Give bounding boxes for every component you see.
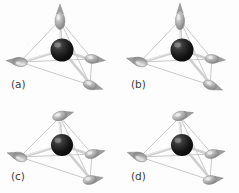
- spin-left: [126, 148, 149, 164]
- panel-b-label: (b): [131, 79, 146, 90]
- spin-front: [82, 79, 104, 94]
- spin-right: [205, 54, 226, 64]
- spin-apex: [55, 4, 65, 30]
- central-sphere: [51, 134, 73, 156]
- figure-panel-grid: (a): [0, 0, 239, 193]
- central-sphere: [51, 39, 74, 62]
- panel-d: (d): [120, 97, 239, 193]
- panel-b: (b): [120, 0, 239, 96]
- central-sphere: [171, 39, 194, 62]
- spin-left: [125, 54, 148, 69]
- panel-a-label: (a): [11, 79, 26, 90]
- spin-left: [6, 149, 29, 164]
- panel-d-label: (d): [131, 171, 146, 182]
- panel-c-label: (c): [11, 171, 25, 182]
- central-sphere: [171, 134, 193, 156]
- spin-right: [85, 54, 106, 65]
- spin-front: [202, 174, 224, 186]
- spin-front: [202, 78, 224, 94]
- panel-a: (a): [0, 0, 119, 96]
- panel-c: (c): [0, 97, 119, 193]
- spin-apex: [175, 3, 184, 30]
